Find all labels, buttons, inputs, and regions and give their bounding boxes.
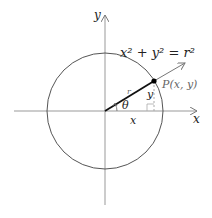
angle-label: θ (122, 99, 129, 112)
point-p (151, 78, 156, 83)
horizontal-leg-label: x (130, 114, 137, 127)
equation-label: x² + y² = r² (120, 45, 195, 60)
x-axis-label: x (193, 112, 200, 126)
y-axis-label: y (93, 8, 101, 22)
right-angle-marker (147, 104, 154, 111)
unit-circle-diagram: x² + y² = r² y x P(x, y) r θ x y (0, 0, 212, 218)
vertical-leg-label: y (146, 88, 154, 101)
point-label: P(x, y) (161, 78, 197, 91)
